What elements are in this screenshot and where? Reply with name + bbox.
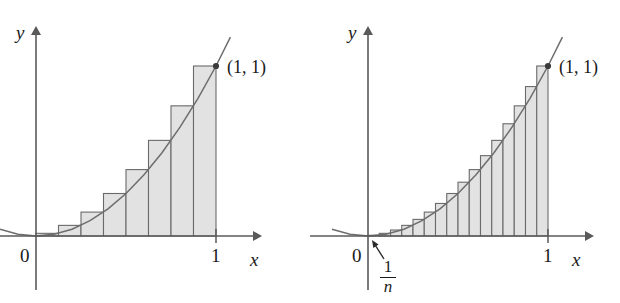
x-axis-arrowhead — [585, 231, 594, 241]
riemann-rectangle — [447, 194, 458, 237]
x-tick-label-one: 1 — [543, 246, 553, 265]
subinterval-pointer-line — [375, 244, 385, 259]
riemann-rectangle — [526, 87, 537, 236]
x-tick-label-one: 1 — [211, 246, 221, 265]
riemann-rectangle — [492, 140, 503, 236]
left-panel-plot — [0, 0, 310, 303]
riemann-rectangles — [36, 66, 216, 236]
riemann-sum-16-rectangles-panel: y x 0 1 (1, 1) 1 n — [310, 0, 620, 303]
riemann-rectangle — [514, 106, 525, 236]
riemann-sum-figure: y x 0 1 (1, 1) y x 0 1 (1, 1) 1 n — [0, 0, 620, 303]
riemann-rectangle — [458, 182, 469, 236]
subinterval-pointer-arrowhead — [372, 240, 379, 248]
subinterval-width-annotation: 1 n — [380, 258, 396, 296]
x-axis-label: x — [250, 250, 258, 269]
marked-point-dot — [545, 63, 551, 69]
riemann-rectangle — [194, 66, 217, 236]
point-label-one-one: (1, 1) — [559, 58, 598, 76]
marked-point-dot — [213, 63, 219, 69]
y-axis-arrowhead — [31, 26, 41, 35]
riemann-rectangle — [171, 106, 194, 236]
riemann-rectangle — [503, 124, 514, 236]
origin-label: 0 — [352, 246, 362, 265]
x-axis-arrowhead — [253, 231, 262, 241]
fraction-numerator: 1 — [380, 258, 396, 276]
x-axis-label: x — [572, 250, 580, 269]
fraction-denominator: n — [380, 278, 396, 296]
y-axis-arrowhead — [363, 26, 373, 35]
riemann-rectangle — [104, 194, 127, 237]
y-axis-label: y — [348, 23, 356, 42]
origin-label: 0 — [20, 246, 30, 265]
riemann-sum-8-rectangles-panel: y x 0 1 (1, 1) — [0, 0, 310, 303]
riemann-rectangle — [126, 170, 149, 236]
y-axis-label: y — [16, 23, 24, 42]
riemann-rectangles — [368, 66, 548, 236]
riemann-rectangle — [537, 66, 548, 236]
point-label-one-one: (1, 1) — [227, 58, 266, 76]
